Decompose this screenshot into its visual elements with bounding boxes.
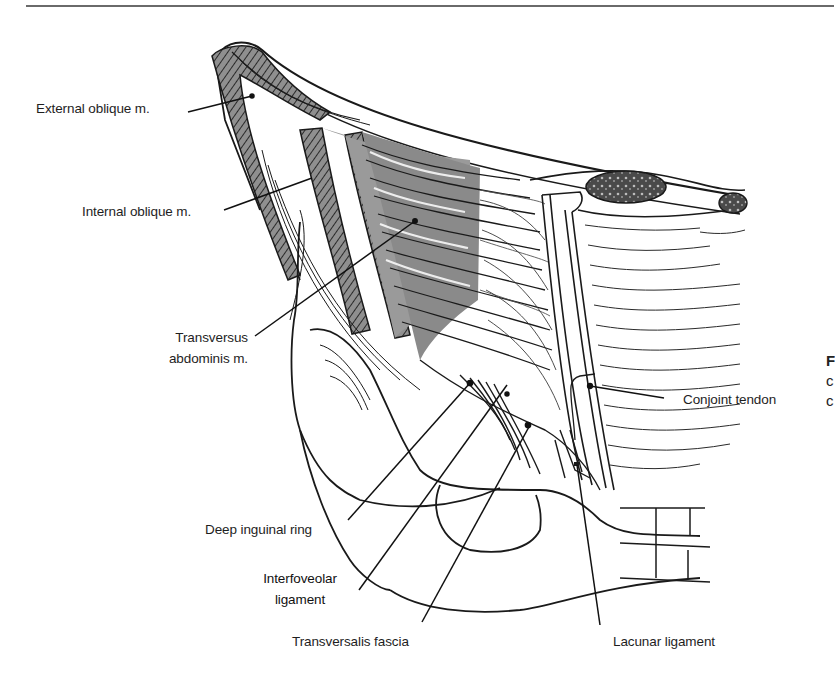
label-lacunar-ligament: Lacunar ligament	[613, 633, 715, 650]
label-deep-inguinal-ring: Deep inguinal ring	[205, 521, 312, 538]
inguinal-region	[420, 360, 600, 490]
aponeurosis-fibers	[480, 200, 560, 410]
label-external-oblique: External oblique m.	[36, 100, 150, 117]
label-interfoveolar-line1: Interfoveolar	[250, 570, 350, 587]
caption-fragment-3: c	[826, 392, 834, 409]
caption-fragment-2: c	[826, 372, 834, 389]
label-conjoint-tendon: Conjoint tendon	[683, 391, 776, 408]
obturator-lines	[320, 345, 370, 410]
label-transversalis-fascia: Transversalis fascia	[292, 633, 409, 650]
pubic-symphysis	[620, 508, 710, 582]
label-internal-oblique: Internal oblique m.	[82, 203, 191, 220]
rectus-fibers	[585, 225, 745, 469]
caption-fragment-1: F	[826, 352, 835, 369]
rectus-sheath	[542, 192, 614, 490]
label-transversus-line2: abdominis m.	[140, 350, 248, 367]
rectus-muscle-cross-section	[586, 171, 666, 203]
label-transversus-line1: Transversus	[160, 329, 248, 346]
pyramidalis-cross-section	[719, 193, 747, 213]
label-interfoveolar-line2: ligament	[250, 591, 350, 608]
